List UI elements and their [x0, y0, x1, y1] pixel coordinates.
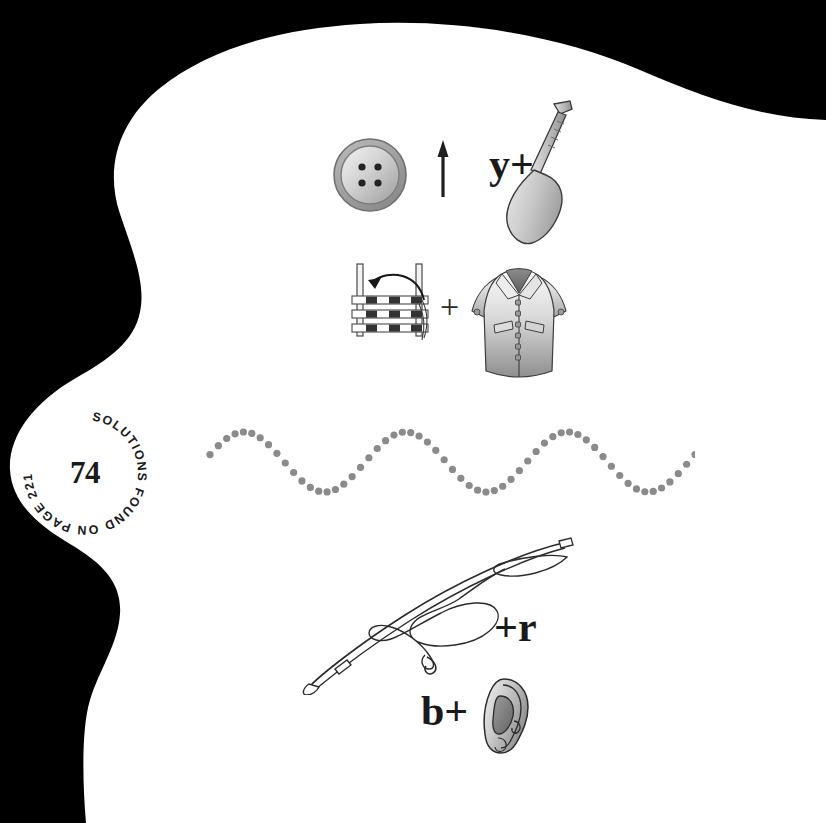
- wave-dot: [650, 488, 657, 495]
- wave-dot: [599, 453, 606, 460]
- wave-dot: [248, 430, 255, 437]
- wave-dot: [282, 459, 289, 466]
- puzzle-page: SOLUTIONS FOUND ON PAGE 221. 74: [0, 0, 826, 823]
- wave-dot: [474, 487, 481, 494]
- wave-dot: [390, 431, 397, 438]
- wave-dot: [608, 463, 615, 470]
- wave-dot: [415, 432, 422, 439]
- wave-dot: [675, 470, 682, 477]
- plus-sign: +: [440, 290, 459, 324]
- wave-dot: [424, 439, 431, 446]
- wave-dot: [231, 430, 238, 437]
- wave-dot: [374, 445, 381, 452]
- wave-dot: [449, 466, 456, 473]
- wave-dot: [307, 484, 314, 491]
- wave-dot: [382, 437, 389, 444]
- wave-dot: [558, 429, 565, 436]
- wave-dot: [257, 434, 264, 441]
- wave-dot: [265, 441, 272, 448]
- wave-dot: [315, 488, 322, 495]
- wave-dot: [633, 485, 640, 492]
- wave-dot: [491, 487, 498, 494]
- wave-dot: [482, 488, 489, 495]
- wave-dot: [349, 473, 356, 480]
- wave-dot: [357, 464, 364, 471]
- up-arrow-icon: [428, 139, 458, 201]
- fishing-rod-icon: [295, 535, 580, 695]
- wave-dot: [625, 480, 632, 487]
- wave-dot: [499, 483, 506, 490]
- wave-dot: [616, 472, 623, 479]
- wave-dot: [206, 451, 213, 458]
- wave-dot: [666, 478, 673, 485]
- wave-dot: [223, 435, 230, 442]
- wave-dot: [340, 481, 347, 488]
- loom-icon: [348, 260, 434, 348]
- solutions-badge: SOLUTIONS FOUND ON PAGE 221. 74: [10, 398, 160, 548]
- wave-dot: [566, 429, 573, 436]
- wave-dot-group: [206, 428, 695, 495]
- puzzle-number: 74: [10, 398, 160, 548]
- wave-dot: [290, 469, 297, 476]
- letters-plus-r: +r: [494, 606, 537, 648]
- coat-icon: [466, 259, 574, 381]
- paddle-icon: [488, 96, 588, 248]
- wave-dot: [507, 476, 514, 483]
- wave-dot: [466, 482, 473, 489]
- wave-dot: [641, 488, 648, 495]
- wave-dot: [524, 457, 531, 464]
- wave-dot: [516, 467, 523, 474]
- wave-dot: [323, 488, 330, 495]
- wave-dot: [658, 484, 665, 491]
- letters-b-plus: b+: [421, 690, 468, 732]
- wave-dot: [691, 451, 695, 458]
- wave-dot: [298, 477, 305, 484]
- wave-dot: [240, 428, 247, 435]
- wave-dot: [273, 450, 280, 457]
- ear-icon: [478, 676, 534, 756]
- wave-dot: [441, 456, 448, 463]
- wave-dot: [332, 486, 339, 493]
- wave-dot: [399, 429, 406, 436]
- wave-dots: [205, 415, 695, 510]
- wave-dot: [683, 461, 690, 468]
- wave-dot: [533, 448, 540, 455]
- wave-dot: [541, 439, 548, 446]
- wave-dot: [549, 433, 556, 440]
- wave-dot: [457, 475, 464, 482]
- wave-dot: [215, 442, 222, 449]
- wave-dot: [574, 431, 581, 438]
- wave-dot: [583, 436, 590, 443]
- wave-dot: [591, 444, 598, 451]
- button-icon: [331, 136, 409, 214]
- wave-dot: [432, 447, 439, 454]
- wave-dot: [365, 454, 372, 461]
- wave-dot: [407, 429, 414, 436]
